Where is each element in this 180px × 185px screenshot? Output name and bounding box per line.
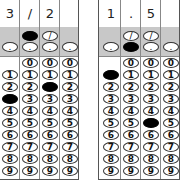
digit-bubble-3[interactable]: 3 bbox=[123, 94, 139, 104]
digit-bubble-4[interactable]: 4 bbox=[103, 106, 119, 116]
digit-bubble-9[interactable]: 9 bbox=[163, 166, 179, 176]
digit-bubble-1[interactable]: 1 bbox=[123, 70, 139, 80]
slash-bubble[interactable]: / bbox=[143, 31, 159, 41]
digit-bubble-6[interactable]: 6 bbox=[62, 130, 78, 140]
decimal-bubble[interactable]: . bbox=[42, 42, 58, 52]
digit-bubble-5[interactable]: 5 bbox=[62, 118, 78, 128]
digit-bubble-9[interactable]: 9 bbox=[22, 166, 38, 176]
digit-bubble-2[interactable]: 2 bbox=[103, 82, 119, 92]
digit-bubble-9[interactable]: 9 bbox=[42, 166, 58, 176]
digit-bubble-8[interactable]: 8 bbox=[62, 154, 78, 164]
digit-bubble-6[interactable]: 6 bbox=[123, 130, 139, 140]
digit-bubble-8[interactable]: 8 bbox=[2, 154, 18, 164]
digit-bubble-4[interactable]: 4 bbox=[123, 106, 139, 116]
digit-bubble-1[interactable]: 1 bbox=[62, 70, 78, 80]
decimal-bubble[interactable]: . bbox=[103, 42, 119, 52]
digit-bubble-7[interactable]: 7 bbox=[22, 142, 38, 152]
written-answer-char: 3 bbox=[0, 6, 20, 21]
digit-bubble-4[interactable]: 4 bbox=[62, 106, 78, 116]
digit-bubble-7[interactable]: 7 bbox=[103, 142, 119, 152]
digit-bubble-6[interactable]: 6 bbox=[103, 130, 119, 140]
digit-bubble-9[interactable]: 9 bbox=[2, 166, 18, 176]
column-divider bbox=[140, 0, 141, 179]
digit-bubble-2[interactable]: 2 bbox=[2, 82, 18, 92]
digit-bubble-6[interactable]: 6 bbox=[2, 130, 18, 140]
column-divider bbox=[160, 0, 161, 179]
written-answer-char: 1 bbox=[101, 6, 121, 21]
digit-bubble-1[interactable]: 1 bbox=[103, 70, 119, 80]
digit-bubble-7[interactable]: 7 bbox=[2, 142, 18, 152]
decimal-bubble[interactable]: . bbox=[143, 42, 159, 52]
digit-bubble-3[interactable]: 3 bbox=[42, 94, 58, 104]
column-divider bbox=[19, 0, 20, 179]
digit-bubble-5[interactable]: 5 bbox=[22, 118, 38, 128]
digit-bubble-4[interactable]: 4 bbox=[2, 106, 18, 116]
digit-bubble-5[interactable]: 5 bbox=[103, 118, 119, 128]
decimal-bubble[interactable]: . bbox=[2, 42, 18, 52]
digit-bubble-5[interactable]: 5 bbox=[163, 118, 179, 128]
column-divider bbox=[120, 0, 121, 179]
digit-bubble-8[interactable]: 8 bbox=[103, 154, 119, 164]
answer-grid-left: 3/2//....1234567890123456789012345678901… bbox=[0, 0, 79, 180]
digit-bubble-2[interactable]: 2 bbox=[163, 82, 179, 92]
digit-bubble-6[interactable]: 6 bbox=[143, 130, 159, 140]
digit-bubble-5[interactable]: 5 bbox=[2, 118, 18, 128]
digit-bubble-4[interactable]: 4 bbox=[42, 106, 58, 116]
digit-bubble-7[interactable]: 7 bbox=[42, 142, 58, 152]
digit-bubble-7[interactable]: 7 bbox=[163, 142, 179, 152]
digit-bubble-8[interactable]: 8 bbox=[123, 154, 139, 164]
digit-bubble-8[interactable]: 8 bbox=[143, 154, 159, 164]
digit-bubble-3[interactable]: 3 bbox=[143, 94, 159, 104]
written-answer-char: 5 bbox=[141, 6, 161, 21]
digit-bubble-6[interactable]: 6 bbox=[163, 130, 179, 140]
digit-bubble-1[interactable]: 1 bbox=[143, 70, 159, 80]
digit-bubble-5[interactable]: 5 bbox=[123, 118, 139, 128]
digit-bubble-1[interactable]: 1 bbox=[22, 70, 38, 80]
slash-bubble[interactable]: / bbox=[42, 31, 58, 41]
digit-bubble-2[interactable]: 2 bbox=[62, 82, 78, 92]
written-answer-char: . bbox=[121, 6, 141, 21]
digit-bubble-0[interactable]: 0 bbox=[123, 58, 139, 68]
decimal-bubble[interactable]: . bbox=[163, 42, 179, 52]
digit-bubble-2[interactable]: 2 bbox=[42, 82, 58, 92]
digit-bubble-9[interactable]: 9 bbox=[103, 166, 119, 176]
digit-bubble-0[interactable]: 0 bbox=[22, 58, 38, 68]
digit-bubble-7[interactable]: 7 bbox=[62, 142, 78, 152]
digit-bubble-9[interactable]: 9 bbox=[62, 166, 78, 176]
digit-bubble-0[interactable]: 0 bbox=[163, 58, 179, 68]
digit-bubble-8[interactable]: 8 bbox=[163, 154, 179, 164]
decimal-bubble[interactable]: . bbox=[22, 42, 38, 52]
digit-bubble-1[interactable]: 1 bbox=[42, 70, 58, 80]
digit-bubble-2[interactable]: 2 bbox=[143, 82, 159, 92]
decimal-bubble[interactable]: . bbox=[62, 42, 78, 52]
decimal-bubble[interactable]: . bbox=[123, 42, 139, 52]
digit-bubble-4[interactable]: 4 bbox=[22, 106, 38, 116]
digit-bubble-0[interactable]: 0 bbox=[62, 58, 78, 68]
digit-bubble-3[interactable]: 3 bbox=[2, 94, 18, 104]
digit-bubble-3[interactable]: 3 bbox=[163, 94, 179, 104]
digit-bubble-4[interactable]: 4 bbox=[163, 106, 179, 116]
digit-bubble-0[interactable]: 0 bbox=[42, 58, 58, 68]
digit-bubble-3[interactable]: 3 bbox=[22, 94, 38, 104]
digit-bubble-7[interactable]: 7 bbox=[123, 142, 139, 152]
digit-bubble-7[interactable]: 7 bbox=[143, 142, 159, 152]
digit-bubble-8[interactable]: 8 bbox=[42, 154, 58, 164]
digit-bubble-9[interactable]: 9 bbox=[123, 166, 139, 176]
digit-bubble-4[interactable]: 4 bbox=[143, 106, 159, 116]
digit-bubble-3[interactable]: 3 bbox=[62, 94, 78, 104]
digit-bubble-6[interactable]: 6 bbox=[42, 130, 58, 140]
written-answer-char: / bbox=[20, 6, 40, 21]
digit-bubble-2[interactable]: 2 bbox=[123, 82, 139, 92]
digit-bubble-6[interactable]: 6 bbox=[22, 130, 38, 140]
digit-bubble-5[interactable]: 5 bbox=[143, 118, 159, 128]
digit-bubble-0[interactable]: 0 bbox=[143, 58, 159, 68]
digit-bubble-2[interactable]: 2 bbox=[22, 82, 38, 92]
digit-bubble-5[interactable]: 5 bbox=[42, 118, 58, 128]
digit-bubble-3[interactable]: 3 bbox=[103, 94, 119, 104]
digit-bubble-8[interactable]: 8 bbox=[22, 154, 38, 164]
slash-bubble[interactable]: / bbox=[22, 31, 38, 41]
slash-bubble[interactable]: / bbox=[123, 31, 139, 41]
digit-bubble-1[interactable]: 1 bbox=[163, 70, 179, 80]
digit-bubble-9[interactable]: 9 bbox=[143, 166, 159, 176]
digit-bubble-1[interactable]: 1 bbox=[2, 70, 18, 80]
